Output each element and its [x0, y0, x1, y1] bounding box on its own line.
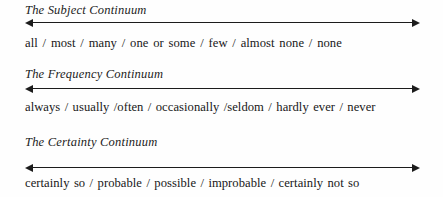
continuum-terms-frequency: always / usually /often / occasionally /… — [25, 100, 423, 115]
axis-line — [29, 167, 416, 168]
continuum-block-subject: The Subject Continuum all / most / many … — [0, 0, 443, 60]
continuum-terms-certainty: certainly so / probable / possible / imp… — [25, 176, 423, 191]
continuum-title-certainty: The Certainty Continuum — [25, 135, 157, 150]
arrow-right-icon — [412, 19, 420, 27]
arrow-right-icon — [412, 164, 420, 172]
continuum-title-subject: The Subject Continuum — [25, 3, 147, 18]
continuum-title-frequency: The Frequency Continuum — [25, 67, 163, 82]
continuum-block-frequency: The Frequency Continuum always / usually… — [0, 64, 443, 128]
continuum-axis-frequency — [25, 84, 420, 93]
continuum-block-certainty: The Certainty Continuum certainly so / p… — [0, 132, 443, 197]
continuum-terms-subject: all / most / many / one or some / few / … — [25, 36, 423, 51]
axis-line — [29, 88, 416, 89]
arrow-right-icon — [412, 85, 420, 93]
continuum-figure: The Subject Continuum all / most / many … — [0, 0, 443, 197]
axis-line — [29, 22, 416, 23]
continuum-axis-subject — [25, 18, 420, 27]
continuum-axis-certainty — [25, 163, 420, 172]
